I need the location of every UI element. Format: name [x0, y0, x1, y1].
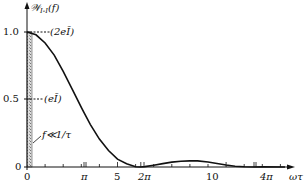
- annotation-band: f≪1/τ: [42, 130, 71, 140]
- leader-band: [33, 136, 41, 143]
- x-axis-title: ωτ: [289, 172, 303, 182]
- y-tick-0: 0: [15, 162, 21, 172]
- y-tick-05: 0.5: [3, 94, 19, 104]
- spectral-density-curve: [27, 32, 285, 167]
- x-tick-4pi: 4π: [260, 172, 273, 182]
- y-tick-1: 1.0: [3, 27, 19, 37]
- y-axis-argument: (f): [48, 2, 60, 13]
- y-axis-symbol: 𝒲: [30, 2, 40, 13]
- x-tick-0: 0: [24, 172, 30, 182]
- x-tick-2pi: 2π: [138, 172, 151, 182]
- y-axis-arrow: [25, 2, 30, 9]
- y-axis-title: 𝒲I-I(f): [30, 3, 59, 14]
- x-tick-10: 10: [206, 172, 219, 182]
- x-axis-arrow: [287, 165, 295, 170]
- annotation-eI: (eĪ): [44, 94, 62, 104]
- x-tick-5: 5: [114, 172, 120, 182]
- x-tick-pi: π: [81, 172, 88, 182]
- y-axis-subscript: I-I: [40, 7, 48, 15]
- annotation-2eI: (2eĪ): [50, 27, 74, 37]
